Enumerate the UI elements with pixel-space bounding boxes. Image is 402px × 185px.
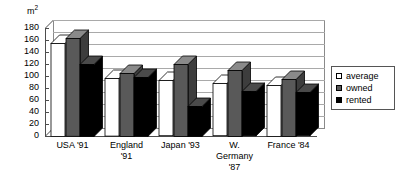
legend-label-rented: rented [346,95,372,106]
y-tick-label-140: 140 [24,46,39,57]
bar-3d-shape [242,83,266,137]
plot-area: 180160140120100806040200 [45,20,325,136]
y-axis-unit-text: m [27,6,35,16]
bar-rented-4 [296,93,310,136]
y-tick-label-40: 40 [29,106,39,117]
y-tick-label-180: 180 [24,22,39,33]
y-axis-unit-exponent: 2 [35,4,39,11]
bar-rented-1 [134,77,148,136]
legend-label-owned: owned [346,83,373,94]
bar-average-1 [105,78,119,136]
bar-rented-3 [242,92,256,136]
bar-3d-shape [296,84,320,137]
bar-3d-shape [188,98,212,138]
bar-average-2 [159,81,173,136]
bar-average-0 [51,43,65,136]
y-tick-label-80: 80 [29,82,39,93]
y-axis-unit-label: m2 [27,6,38,16]
bar-average-4 [267,85,281,136]
legend-item-average: average [336,70,390,82]
legend-swatch-rented-icon [336,97,342,103]
bar-owned-4 [282,79,296,136]
bar-rented-2 [188,106,202,136]
legend-swatch-owned-icon [336,85,342,91]
y-tick-label-60: 60 [29,94,39,105]
legend-item-rented: rented [336,94,390,106]
bar-average-3 [213,84,227,136]
bar-owned-3 [228,70,242,136]
bar-3d-shape [80,56,104,138]
bar-owned-1 [120,73,134,136]
y-tick-label-160: 160 [24,34,39,45]
legend-label-average: average [346,71,379,82]
y-tick-label-20: 20 [29,118,39,129]
y-tick-label-100: 100 [24,70,39,81]
bars-group [45,20,325,137]
bar-rented-0 [80,64,94,136]
legend-swatch-average-icon [336,73,342,79]
bar-owned-2 [174,64,188,136]
x-axis-label-4: France '84 [255,140,323,151]
bar-chart: m2 180160140120100806040200 USA '91Engla… [0,0,402,185]
bar-owned-0 [66,38,80,136]
bar-3d-shape [134,69,158,137]
legend-item-owned: owned [336,82,390,94]
chart-legend: average owned rented [331,66,395,110]
y-tick-label-120: 120 [24,58,39,69]
